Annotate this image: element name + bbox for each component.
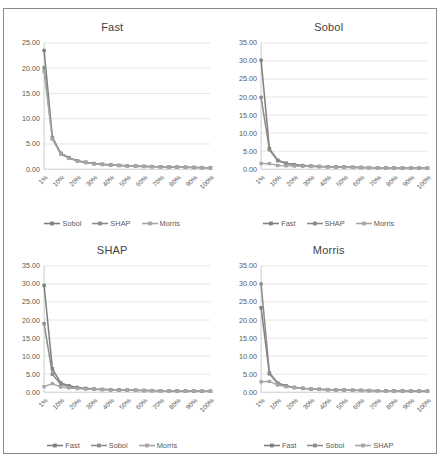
data-point-marker [117,164,120,167]
x-tick-label: 90% [401,396,416,410]
legend-label: Sobol [62,219,81,228]
x-tick-label: 80% [384,174,399,188]
legend-label: SHAP [325,219,345,228]
data-point-marker [134,165,137,168]
series-line-sobol [44,323,210,391]
chart-title-fast: Fast [4,21,221,33]
legend-marker-icon [264,442,280,449]
chart-panel-shap: SHAP 0.005.0010.0015.0020.0025.0030.0035… [4,232,221,455]
legend-item-morris[interactable]: Morris [139,441,178,450]
x-tick-label: 50% [334,396,349,410]
y-tick-label: 5.00 [26,370,40,378]
y-tick-label: 10.00 [22,115,40,123]
data-point-marker [192,389,195,392]
data-point-marker [417,167,420,170]
x-tick-label: 40% [101,396,116,410]
legend-marker-icon [355,442,371,449]
y-tick-label: 35.00 [239,262,257,270]
data-point-marker [67,157,70,160]
x-tick-label: 70% [367,396,382,410]
y-tick-label: 35.00 [239,39,257,47]
y-tick-label: 25.00 [239,298,257,306]
x-tick-label: 50% [118,396,133,410]
series-line-morris [44,71,210,168]
x-tick-label: 60% [351,174,366,188]
data-point-marker [109,163,112,166]
x-tick-label: 20% [68,174,83,188]
data-point-marker [159,389,162,392]
x-tick-label: 100% [198,174,215,191]
data-point-marker [342,166,345,169]
data-point-marker [417,389,420,392]
plot-area-sobol: 0.005.0010.0015.0020.0025.0030.0035.001%… [221,37,438,232]
legend-item-fast[interactable]: Fast [263,219,295,228]
x-tick-label: 60% [351,396,366,410]
legend-item-fast[interactable]: Fast [264,441,296,450]
legend-item-sobol[interactable]: Sobol [91,441,128,450]
x-tick-label: 90% [184,174,199,188]
data-point-marker [392,166,395,169]
data-point-marker [367,166,370,169]
x-tick-label: 40% [101,174,116,188]
y-tick-label: 30.00 [239,280,257,288]
data-point-marker [325,165,328,168]
x-tick-label: 30% [84,174,99,188]
legend-item-morris[interactable]: Morris [356,219,395,228]
data-point-marker [325,388,328,391]
chart-title-shap: SHAP [4,244,221,256]
y-tick-label: 5.00 [243,370,257,378]
data-point-marker [92,162,95,165]
data-point-marker [359,166,362,169]
y-tick-label: 20.00 [22,316,40,324]
data-point-marker [392,389,395,392]
y-tick-label: 5.00 [243,148,257,156]
plot-area-shap: 0.005.0010.0015.0020.0025.0030.0035.001%… [4,260,221,455]
x-tick-label: 30% [301,174,316,188]
data-point-marker [259,380,262,383]
data-point-marker [334,388,337,391]
x-tick-label: 100% [198,396,215,413]
legend-label: Fast [281,219,295,228]
data-point-marker [209,389,212,392]
data-point-marker [267,379,270,382]
line-chart-morris: 0.005.0010.0015.0020.0025.0030.0035.001%… [221,260,438,455]
x-tick-label: 30% [301,396,316,410]
legend-item-shap[interactable]: SHAP [355,441,393,450]
x-tick-label: 40% [318,396,333,410]
data-point-marker [42,283,45,286]
legend-item-sobol[interactable]: Sobol [44,219,81,228]
chart-panel-fast: Fast 0.005.0010.0015.0020.0025.001%10%20… [4,9,221,232]
data-point-marker [259,306,262,309]
data-point-marker [292,164,295,167]
y-tick-label: 15.00 [239,334,257,342]
data-point-marker [42,66,45,69]
data-point-marker [184,389,187,392]
legend-item-morris[interactable]: Morris [142,219,181,228]
legend-marker-icon [307,220,323,227]
legend-label: Morris [160,219,181,228]
y-tick-label: 25.00 [239,76,257,84]
legend-shap: FastSobolMorris [4,441,221,450]
data-point-marker [317,387,320,390]
x-tick-label: 1% [37,396,49,408]
x-tick-label: 1% [37,174,49,186]
data-point-marker [175,389,178,392]
x-tick-label: 80% [384,396,399,410]
data-point-marker [267,162,270,165]
data-point-marker [42,70,45,73]
legend-item-sobol[interactable]: Sobol [307,441,344,450]
legend-item-shap[interactable]: SHAP [307,219,345,228]
line-chart-fast: 0.005.0010.0015.0020.0025.001%10%20%30%4… [4,37,221,232]
y-tick-label: 20.00 [239,94,257,102]
data-point-marker [67,386,70,389]
x-tick-label: 70% [151,396,166,410]
data-point-marker [42,49,45,52]
legend-marker-icon [92,220,108,227]
y-tick-label: 25.00 [22,39,40,47]
x-tick-label: 20% [284,396,299,410]
data-point-marker [334,165,337,168]
legend-item-fast[interactable]: Fast [47,441,79,450]
x-tick-label: 60% [134,396,149,410]
legend-item-shap[interactable]: SHAP [92,219,130,228]
x-tick-label: 80% [168,396,183,410]
